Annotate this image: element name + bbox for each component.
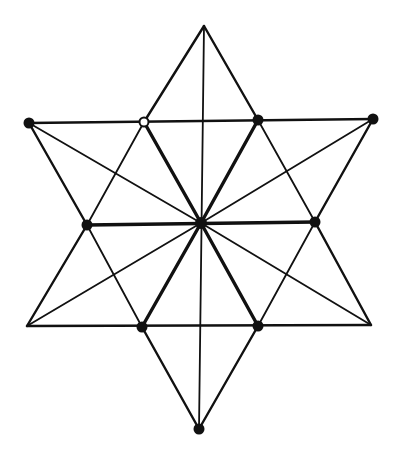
edge-outer-upper-left-to-mid-left bbox=[29, 123, 87, 225]
edge-center-to-outer-lower-left bbox=[27, 223, 201, 326]
vertex-inner-upper-right bbox=[253, 115, 264, 126]
edge-outer-upper-right-to-mid-right bbox=[315, 119, 373, 222]
edge-inner-upper-left-to-center bbox=[144, 122, 201, 223]
vertex-inner-upper-left bbox=[140, 118, 149, 127]
hexagram-diagram bbox=[0, 0, 402, 466]
edge-center-to-inner-lower-right bbox=[201, 223, 258, 326]
edge-mid-right-to-outer-lower-right bbox=[315, 222, 371, 325]
edge-top-to-inner-upper-right bbox=[204, 26, 258, 120]
edge-mid-left-to-outer-lower-left bbox=[27, 225, 87, 326]
edge-inner-lower-left-to-bottom bbox=[142, 327, 199, 429]
edge-mid-left-to-inner-lower-left bbox=[87, 225, 142, 327]
edge-outer-upper-left-to-outer-upper-right bbox=[29, 119, 373, 123]
vertex-center bbox=[195, 217, 207, 229]
vertex-bottom bbox=[194, 424, 205, 435]
vertex-inner-lower-left bbox=[137, 322, 148, 333]
vertex-inner-lower-right bbox=[253, 321, 264, 332]
vertex-outer-upper-left bbox=[24, 118, 35, 129]
vertex-mid-left bbox=[82, 220, 93, 231]
edge-center-to-inner-lower-left bbox=[142, 223, 201, 327]
edge-center-to-outer-lower-right bbox=[201, 223, 371, 325]
vertex-outer-upper-right bbox=[368, 114, 379, 125]
edge-inner-upper-left-to-mid-left bbox=[87, 122, 144, 225]
vertex-mid-right bbox=[310, 217, 321, 228]
edge-inner-upper-right-to-mid-right bbox=[258, 120, 315, 222]
edge-top-to-inner-upper-left bbox=[144, 26, 204, 122]
edge-outer-lower-left-to-outer-lower-right bbox=[27, 325, 371, 326]
edge-inner-lower-right-to-bottom bbox=[199, 326, 258, 429]
edge-inner-upper-right-to-center bbox=[201, 120, 258, 223]
